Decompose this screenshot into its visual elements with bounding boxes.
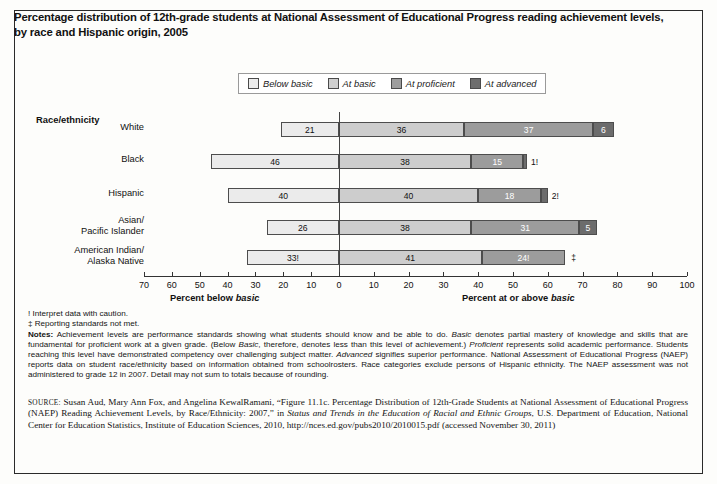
x-axis-tick xyxy=(548,272,549,276)
x-axis-tick-label: 10 xyxy=(361,280,387,290)
x-axis-tick-label: 50 xyxy=(500,280,526,290)
chart-plot-area: White2136376Black4638151!Hispanic4040182… xyxy=(0,0,689,464)
bar-segment-below-basic: 33! xyxy=(247,250,339,265)
bar-segment-at-proficient: 15 xyxy=(471,154,523,169)
x-axis-tick xyxy=(339,272,340,276)
row-label-hispanic: Hispanic xyxy=(26,188,144,199)
x-axis-tick-label: 20 xyxy=(396,280,422,290)
x-axis-tick xyxy=(687,272,688,276)
bar-value-at-advanced: ‡ xyxy=(571,253,576,263)
x-axis-tick-label: 30 xyxy=(242,280,268,290)
x-axis-tick-label: 40 xyxy=(215,280,241,290)
bar-segment-at-advanced: 6 xyxy=(593,122,614,137)
bar-segment-at-basic: 38 xyxy=(339,154,471,169)
x-axis-tick-label: 40 xyxy=(465,280,491,290)
source-label: SOURCE: xyxy=(28,398,61,407)
bar-segment-below-basic: 26 xyxy=(267,220,339,235)
bar-segment-at-basic: 40 xyxy=(339,188,478,203)
x-axis-line xyxy=(144,276,687,277)
x-axis-tick xyxy=(144,272,145,276)
x-axis-title-right: Percent at or above basic xyxy=(462,293,575,303)
figure-source: SOURCE: Susan Aud, Mary Ann Fox, and Ang… xyxy=(28,397,688,431)
x-axis-tick xyxy=(583,272,584,276)
x-axis-tick xyxy=(652,272,653,276)
figure-page: Percentage distribution of 12th-grade st… xyxy=(0,0,717,484)
x-axis-tick-label: 90 xyxy=(639,280,665,290)
note-general-text: Achievement levels are performance stand… xyxy=(28,330,688,379)
x-axis-tick-label: 10 xyxy=(298,280,324,290)
bar-value-at-advanced: 1! xyxy=(531,157,538,167)
note-general: Notes: Achievement levels are performanc… xyxy=(28,330,688,380)
source-text: Susan Aud, Mary Ann Fox, and Angelina Ke… xyxy=(28,397,688,430)
row-label-american-indian: American Indian/Alaska Native xyxy=(26,245,144,266)
bar-segment-at-advanced xyxy=(541,188,548,203)
bar-segment-below-basic: 46 xyxy=(211,154,339,169)
row-label-black: Black xyxy=(26,154,144,165)
x-axis-tick-label: 50 xyxy=(187,280,213,290)
x-axis-tick xyxy=(617,272,618,276)
x-axis-tick xyxy=(443,272,444,276)
x-axis-tick-label: 80 xyxy=(604,280,630,290)
x-axis-tick xyxy=(513,272,514,276)
bar-segment-at-basic: 36 xyxy=(339,122,464,137)
bar-segment-at-proficient: 31 xyxy=(471,220,579,235)
note-general-label: Notes: xyxy=(28,330,53,339)
bar-segment-at-basic: 38 xyxy=(339,220,471,235)
bar-segment-below-basic: 21 xyxy=(281,122,340,137)
x-axis-tick-label: 70 xyxy=(570,280,596,290)
x-axis-tick xyxy=(255,272,256,276)
bar-segment-below-basic: 40 xyxy=(228,188,339,203)
note-reporting-standards: ‡ Reporting standards not met. xyxy=(28,319,688,329)
x-axis-tick-label: 60 xyxy=(535,280,561,290)
x-axis-tick xyxy=(228,272,229,276)
bar-segment-at-proficient: 24! xyxy=(482,250,566,265)
x-axis-tick-label: 70 xyxy=(131,280,157,290)
x-axis-tick-label: 100 xyxy=(674,280,700,290)
x-axis-tick xyxy=(311,272,312,276)
bar-value-at-advanced: 2! xyxy=(552,191,559,201)
x-axis-tick-label: 60 xyxy=(159,280,185,290)
x-axis-tick xyxy=(283,272,284,276)
x-axis-tick-label: 30 xyxy=(430,280,456,290)
row-label-white: White xyxy=(26,122,144,133)
bar-segment-at-proficient: 18 xyxy=(478,188,541,203)
bar-segment-at-advanced xyxy=(523,154,526,169)
x-axis-title-left: Percent below basic xyxy=(170,293,259,303)
x-axis-tick-label: 0 xyxy=(326,280,352,290)
zero-reference-line xyxy=(339,112,340,276)
note-interpret-caution: ! Interpret data with caution. xyxy=(28,309,688,319)
x-axis-tick xyxy=(374,272,375,276)
row-label-asian: Asian/Pacific Islander xyxy=(26,215,144,236)
bar-segment-at-basic: 41 xyxy=(339,250,482,265)
x-axis-tick xyxy=(409,272,410,276)
bar-segment-at-advanced: 5 xyxy=(579,220,596,235)
figure-notes: ! Interpret data with caution. ‡ Reporti… xyxy=(28,309,688,380)
x-axis-tick-label: 20 xyxy=(270,280,296,290)
x-axis-tick xyxy=(478,272,479,276)
x-axis-tick xyxy=(172,272,173,276)
x-axis-tick xyxy=(200,272,201,276)
bar-segment-at-proficient: 37 xyxy=(464,122,593,137)
